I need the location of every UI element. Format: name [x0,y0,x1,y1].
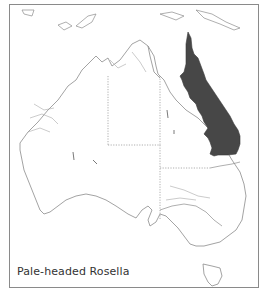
northern-islands [22,10,240,30]
australia-map [0,0,266,298]
map-title: Pale-headed Rosella [17,265,130,278]
tasmania [203,264,222,286]
